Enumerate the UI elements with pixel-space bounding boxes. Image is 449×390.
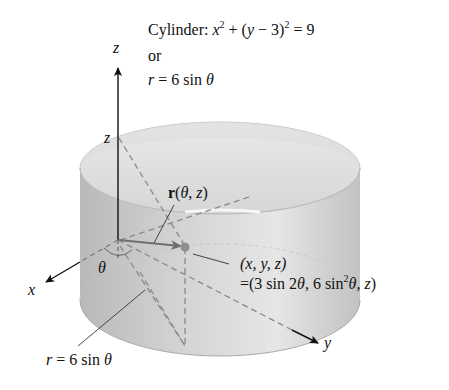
x-axis-label: x	[28, 282, 35, 298]
z-axis-label: z	[113, 40, 119, 56]
point-xyz	[181, 243, 190, 252]
cylinder-diagram: Cylinder: x2 + (y − 3)2 = 9 or r = 6 sin…	[0, 0, 449, 390]
polar-equation: r = 6 sin θ	[148, 72, 214, 88]
y-axis-label: y	[324, 335, 331, 351]
base-curve-label: r = 6 sin θ	[46, 352, 112, 368]
cylinder-equation: Cylinder: x2 + (y − 3)2 = 9	[148, 22, 314, 38]
diagram-graphics	[0, 0, 449, 390]
point-parametric: =(3 sin 2θ, 6 sin2θ, z)	[240, 276, 376, 292]
r-vector-label: r(θ, z)	[168, 185, 208, 201]
x-axis	[46, 262, 80, 282]
point-label: (x, y, z)	[240, 256, 286, 272]
z-height-label: z	[104, 130, 110, 146]
theta-label: θ	[98, 260, 106, 276]
or-label: or	[148, 48, 161, 64]
